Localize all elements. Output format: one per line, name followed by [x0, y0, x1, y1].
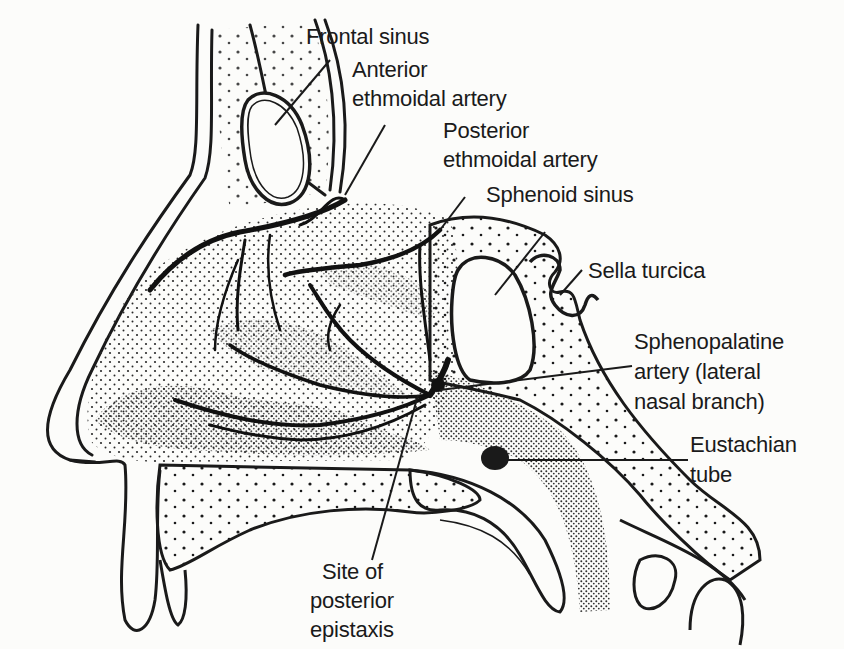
label-epistaxis-line2: posterior — [310, 586, 394, 616]
nasal-anatomy-figure: Frontal sinus Anterior ethmoidal artery … — [0, 0, 844, 649]
label-epistaxis-line3: epistaxis — [310, 615, 394, 645]
label-eustachian-line1: Eustachian — [690, 430, 797, 460]
label-sphenopalatine-line1: Sphenopalatine — [634, 327, 784, 357]
label-posterior-ethmoidal-line1: Posterior — [443, 116, 529, 146]
label-anterior-ethmoidal-line1: Anterior — [352, 55, 427, 85]
label-epistaxis-line1: Site of — [322, 557, 383, 587]
label-eustachian-line2: tube — [690, 460, 732, 490]
label-sella-turcica: Sella turcica — [588, 256, 705, 286]
hard-palate — [157, 465, 480, 570]
label-sphenopalatine-line2: artery (lateral — [634, 357, 761, 387]
label-sphenopalatine-line3: nasal branch) — [634, 387, 765, 417]
label-frontal-sinus: Frontal sinus — [306, 22, 429, 52]
label-posterior-ethmoidal-line2: ethmoidal artery — [443, 145, 598, 175]
leader-anterior-ethmoidal — [345, 125, 385, 195]
label-sphenoid-sinus: Sphenoid sinus — [486, 180, 634, 210]
label-anterior-ethmoidal-line2: ethmoidal artery — [352, 84, 507, 114]
eustachian-tube-opening — [481, 446, 509, 470]
leader-sella-turcica — [560, 270, 582, 295]
